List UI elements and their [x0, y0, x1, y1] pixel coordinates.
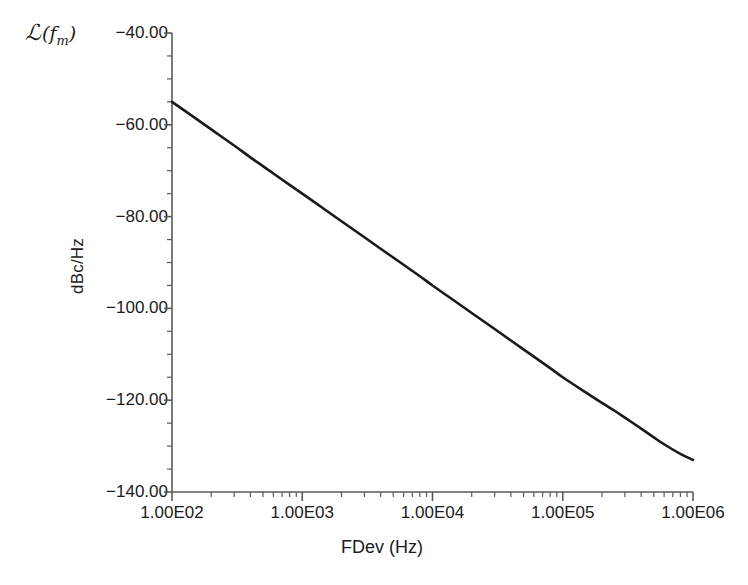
x-axis-ticks [172, 492, 693, 501]
phase-noise-chart: ℒ(fm) dBc/Hz FDev (Hz) −40.00−60.00−80.0… [0, 0, 748, 585]
data-series-curve [172, 102, 693, 460]
axis-lines [172, 33, 693, 492]
plot-area [0, 0, 748, 585]
